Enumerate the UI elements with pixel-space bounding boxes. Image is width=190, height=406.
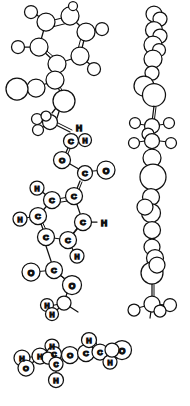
atom-label-H: H <box>53 376 58 385</box>
atom-node <box>166 138 177 149</box>
atom-label-C: C <box>97 348 103 357</box>
atom-node <box>130 118 141 129</box>
atom-label-C: C <box>35 212 41 221</box>
atom-node <box>128 304 140 316</box>
atom-label-O: O <box>59 156 65 165</box>
atom-label-C: C <box>82 169 88 178</box>
atom-node <box>145 134 160 149</box>
figure-caption <box>0 392 190 406</box>
atom-node <box>37 13 55 31</box>
atom-label-C: C <box>83 349 89 358</box>
atom-node <box>77 23 95 41</box>
atom-label-C: C <box>43 233 49 242</box>
atom-label-H: H <box>37 352 42 361</box>
atom-label-C: C <box>51 350 57 359</box>
atom-node <box>46 71 64 89</box>
atom-label-H: H <box>74 253 79 260</box>
atom-node <box>164 118 175 129</box>
atom-node <box>30 38 48 56</box>
free-label-H: H <box>76 123 82 133</box>
atom-node <box>144 222 161 239</box>
atom-node <box>41 111 51 121</box>
atom-label-H: H <box>34 185 39 192</box>
atom-label-O: O <box>103 166 110 176</box>
atom-node <box>105 343 119 357</box>
atom-node <box>27 79 45 97</box>
atom-node <box>6 78 28 100</box>
atom-node <box>140 164 166 190</box>
free-label-H: H <box>101 218 107 228</box>
atom-label-O: O <box>28 268 35 278</box>
atom-label-C: C <box>53 361 58 368</box>
atom-node <box>137 199 153 215</box>
atom-label-H: H <box>49 343 54 350</box>
atom-label-H: H <box>86 336 91 345</box>
atom-label-O: O <box>67 351 73 360</box>
molecular-structure-figure: C H H O C O <box>0 0 190 406</box>
atom-label-H: H <box>17 216 22 223</box>
atom-label-C: C <box>49 196 55 205</box>
atom-node <box>129 138 140 149</box>
molecule-diagram-svg: C H H O C O <box>0 0 190 406</box>
atom-node <box>48 55 66 73</box>
atom-node-C <box>57 296 71 310</box>
atom-label-C: C <box>71 192 77 201</box>
atom-label-H: H <box>82 137 87 144</box>
atom-label-C: C <box>68 137 74 146</box>
atom-node <box>96 23 109 36</box>
atom-node <box>144 50 162 68</box>
atom-node <box>88 63 101 76</box>
atom-node <box>143 84 166 107</box>
atom-label-H: H <box>44 302 49 309</box>
atom-node <box>12 41 25 54</box>
atom-label-H: H <box>19 354 24 363</box>
atom-label-O: O <box>119 346 126 356</box>
atom-node <box>149 257 165 273</box>
atom-label-H: H <box>107 359 112 366</box>
atom-label-C: C <box>51 266 57 275</box>
atom-label-C: C <box>80 218 86 227</box>
atom-node <box>154 305 166 317</box>
atom-node <box>53 90 75 112</box>
atom-label-H: H <box>49 311 54 318</box>
atom-label-C: C <box>65 236 71 245</box>
atom-node <box>71 47 89 65</box>
atom-node <box>69 2 78 11</box>
atom-node <box>25 6 38 19</box>
atom-label-O: O <box>23 364 29 373</box>
atom-node <box>33 125 44 136</box>
atom-label-O: O <box>69 281 76 291</box>
